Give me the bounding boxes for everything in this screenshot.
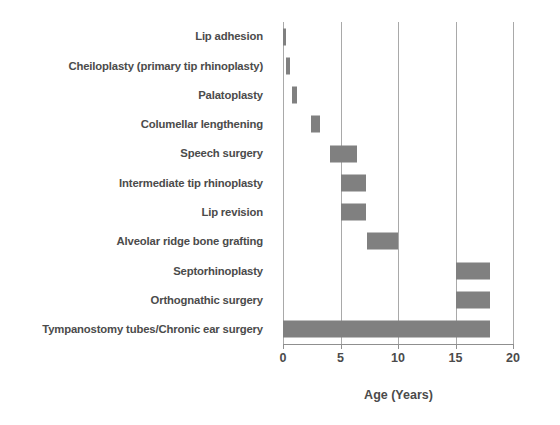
bar-row [283, 22, 513, 51]
bar[interactable] [367, 233, 398, 250]
category-label: Speech surgery [180, 147, 263, 159]
category-label: Septorhinoplasty [173, 265, 263, 277]
category-label: Alveolar ridge bone grafting [117, 235, 263, 247]
category-row: Alveolar ridge bone grafting [0, 227, 272, 256]
category-label: Orthognathic surgery [151, 294, 264, 306]
bar[interactable] [341, 174, 366, 191]
bar-row [283, 51, 513, 80]
x-tick-label: 15 [449, 351, 463, 365]
category-axis: Lip adhesion Cheiloplasty (primary tip r… [0, 22, 272, 344]
bar[interactable] [311, 116, 320, 133]
bar[interactable] [330, 145, 356, 162]
category-row: Speech surgery [0, 139, 272, 168]
category-label: Lip revision [201, 206, 263, 218]
category-row: Intermediate tip rhinoplasty [0, 168, 272, 197]
gridline [513, 22, 514, 344]
bar-row [283, 227, 513, 256]
plot-area [283, 22, 513, 344]
x-axis-title: Age (Years) [283, 388, 514, 402]
category-row: Lip revision [0, 198, 272, 227]
bar[interactable] [292, 87, 297, 104]
bar-row [283, 256, 513, 285]
x-tick-label: 5 [337, 351, 344, 365]
x-tick-label: 10 [391, 351, 405, 365]
x-tick-mark [398, 344, 399, 349]
bar-row [283, 110, 513, 139]
category-row: Cheiloplasty (primary tip rhinoplasty) [0, 51, 272, 80]
category-label: Cheiloplasty (primary tip rhinoplasty) [68, 60, 263, 72]
bar-row [283, 81, 513, 110]
x-tick-mark [456, 344, 457, 349]
bar-row [283, 285, 513, 314]
category-row: Palatoplasty [0, 81, 272, 110]
category-label: Lip adhesion [195, 30, 263, 42]
category-label: Columellar lengthening [141, 118, 263, 130]
category-row: Columellar lengthening [0, 110, 272, 139]
x-tick-mark [513, 344, 514, 349]
x-tick-mark [341, 344, 342, 349]
bar[interactable] [341, 204, 366, 221]
bar-row [283, 139, 513, 168]
category-row: Lip adhesion [0, 22, 272, 51]
bar[interactable] [456, 262, 491, 279]
category-row: Tympanostomy tubes/Chronic ear surgery [0, 315, 272, 344]
bar-row [283, 315, 513, 344]
chart-container: Lip adhesion Cheiloplasty (primary tip r… [0, 0, 560, 425]
x-tick-mark [283, 344, 284, 349]
category-label: Palatoplasty [198, 89, 263, 101]
bar[interactable] [283, 321, 490, 338]
x-tick-label: 0 [280, 351, 287, 365]
bar-row [283, 198, 513, 227]
bar[interactable] [456, 292, 491, 309]
bar[interactable] [286, 57, 290, 74]
category-row: Septorhinoplasty [0, 256, 272, 285]
category-row: Orthognathic surgery [0, 285, 272, 314]
category-label: Intermediate tip rhinoplasty [119, 177, 263, 189]
x-axis-ticks: 05101520 [283, 344, 514, 368]
x-tick-label: 20 [506, 351, 520, 365]
bar-row [283, 168, 513, 197]
bars-layer [283, 22, 513, 344]
category-label: Tympanostomy tubes/Chronic ear surgery [42, 323, 263, 335]
bar[interactable] [283, 28, 286, 45]
